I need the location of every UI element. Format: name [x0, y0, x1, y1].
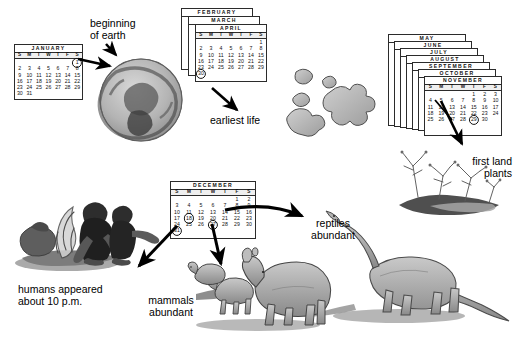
sheep-far [188, 262, 225, 285]
rhino [242, 248, 330, 325]
arrow-november-circle-leader [435, 100, 452, 120]
arrow-beginning-of-earth-pointer [106, 44, 116, 55]
campfire [56, 207, 76, 258]
early-earth-sphere [99, 59, 182, 141]
label-first-land-plants: first land plants [436, 155, 512, 180]
rhino-and-sheep [188, 248, 331, 331]
arrow-december-to-mammals [212, 224, 221, 264]
label-earliest-life: earliest life [210, 114, 260, 126]
diagram-canvas: JANUARY SMTWTFS......1234567891011121314… [0, 0, 517, 339]
arrow-january-to-earth [78, 59, 110, 66]
amoeba-blobs [287, 69, 375, 136]
arrow-november-to-first-land-plants [441, 101, 462, 144]
arrow-december-to-reptiles [225, 207, 302, 216]
label-mammals-abundant: mammals abundant [136, 294, 206, 319]
arrow-april-to-earliest-life [212, 88, 237, 110]
label-humans-appeared: humans appeared about 10 p.m. [18, 283, 103, 308]
early-humans-at-fire [15, 202, 159, 271]
label-beginning-of-earth: beginning of earth [90, 17, 136, 42]
label-reptiles-abundant: reptiles abundant [300, 217, 366, 242]
human-child [109, 206, 159, 266]
